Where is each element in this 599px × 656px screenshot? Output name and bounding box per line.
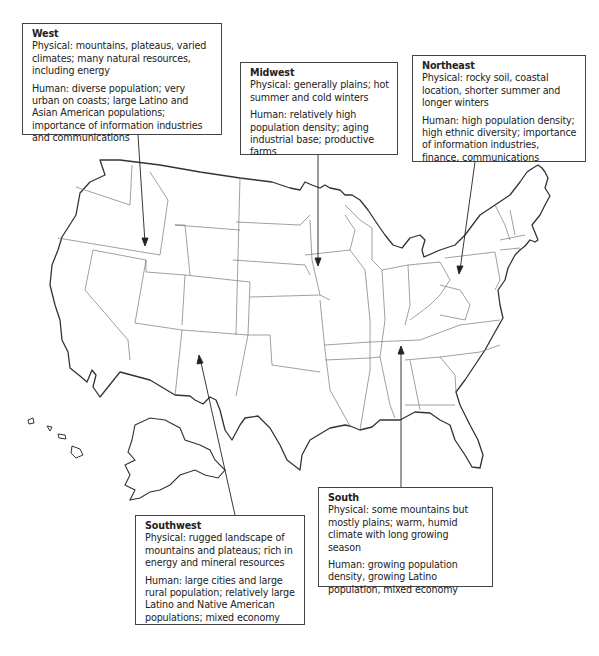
region-physical-midwest: Physical: generally plains; hot summer a… — [250, 79, 389, 104]
region-box-midwest: Midwest Physical: generally plains; hot … — [240, 62, 398, 155]
region-physical-south: Physical: some mountains but mostly plai… — [328, 504, 484, 554]
region-box-south: South Physical: some mountains but mostl… — [318, 487, 493, 587]
region-human-southwest: Human: large cities and large rural popu… — [145, 575, 296, 625]
region-physical-west: Physical: mountains, plateaus, varied cl… — [32, 40, 213, 77]
region-physical-northeast: Physical: rocky soil, coastal location, … — [422, 72, 577, 109]
region-box-west: West Physical: mountains, plateaus, vari… — [22, 23, 222, 135]
region-title-south: South — [328, 492, 484, 504]
region-box-southwest: Southwest Physical: rugged landscape of … — [135, 515, 305, 625]
region-physical-southwest: Physical: rugged landscape of mountains … — [145, 532, 296, 569]
region-title-west: West — [32, 28, 213, 40]
region-title-midwest: Midwest — [250, 67, 389, 79]
hawaii-islands — [28, 418, 83, 458]
us-outline — [50, 160, 550, 470]
region-human-south: Human: growing population density, growi… — [328, 559, 484, 596]
region-human-midwest: Human: relatively high population densit… — [250, 109, 389, 159]
region-title-northeast: Northeast — [422, 60, 577, 72]
region-box-northeast: Northeast Physical: rocky soil, coastal … — [412, 55, 586, 162]
region-title-southwest: Southwest — [145, 520, 296, 532]
region-human-west: Human: diverse population; very urban on… — [32, 83, 213, 145]
region-human-northeast: Human: high population density; high eth… — [422, 115, 577, 165]
alaska-outline — [125, 418, 225, 500]
